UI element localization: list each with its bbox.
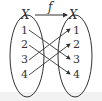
codomain-element-2: 2 xyxy=(73,38,80,51)
codomain-element-1: 1 xyxy=(73,24,80,37)
mapping-arrow-3-to-1 xyxy=(29,29,70,60)
domain-element-4: 4 xyxy=(21,68,28,81)
codomain-label: X xyxy=(68,8,78,22)
codomain-element-3: 3 xyxy=(73,53,80,66)
domain-element-1: 1 xyxy=(21,24,28,37)
mapping-diagram: X X f 1 2 3 4 1 2 3 4 xyxy=(0,0,102,101)
function-label: f xyxy=(47,0,55,14)
domain-label: X xyxy=(20,8,30,22)
mapping-arrow-4-to-2 xyxy=(29,44,70,75)
domain-element-3: 3 xyxy=(21,53,28,66)
domain-element-2: 2 xyxy=(21,38,28,51)
codomain-element-4: 4 xyxy=(73,68,80,81)
